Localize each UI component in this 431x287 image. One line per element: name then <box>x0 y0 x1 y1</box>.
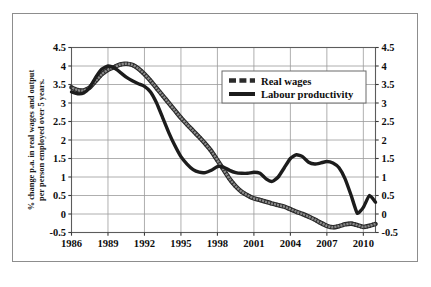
legend-label-real-wages: Real wages <box>261 76 311 87</box>
y-axis-tick-label-left: 4 <box>61 61 66 72</box>
x-axis-tick-label: 2010 <box>353 238 374 249</box>
y-axis-tick-label-right: -0.5 <box>382 227 398 238</box>
x-axis-tick-label: 1995 <box>170 238 191 249</box>
y-axis-tick-label-left: 3.5 <box>53 79 66 90</box>
y-axis-tick-label-left: 1 <box>61 172 66 183</box>
y-axis-tick-label-right: 0 <box>382 209 387 220</box>
x-axis-tick-label: 2007 <box>316 238 338 249</box>
y-axis-tick-label-right: 3 <box>382 98 387 109</box>
legend-label-labour-productivity: Labour productivity <box>261 89 354 100</box>
y-axis-tick-label-right: 3.5 <box>382 79 395 90</box>
legend: Real wagesLabour productivity <box>222 71 366 103</box>
y-axis-tick-label-right: 4.5 <box>382 42 395 53</box>
y-axis-tick-label-right: 1.5 <box>382 153 395 164</box>
x-axis-tick-label: 2001 <box>243 238 264 249</box>
y-axis-title: % change p.a. in real wages and outputpe… <box>27 69 47 210</box>
x-axis-tick-label: 1992 <box>134 238 155 249</box>
y-axis-tick-label-left: 2 <box>61 135 66 146</box>
y-axis-tick-label-right: 0.5 <box>382 190 395 201</box>
y-axis-tick-label-right: 2 <box>382 135 387 146</box>
y-axis-title-line-1: % change p.a. in real wages and output <box>27 69 36 210</box>
y-axis-tick-label-left: 2.5 <box>53 116 66 127</box>
chart-figure: 4.543.532.521.510.50-0.54.543.532.521.51… <box>0 0 431 287</box>
x-axis-tick-label: 1989 <box>97 238 118 249</box>
y-axis-tick-label-left: 0.5 <box>53 190 66 201</box>
x-axis-tick-label: 1986 <box>61 238 82 249</box>
y-axis-tick-label-left: -0.5 <box>50 227 66 238</box>
y-axis-tick-label-right: 2.5 <box>382 116 395 127</box>
y-axis-tick-label-right: 1 <box>382 172 387 183</box>
x-axis-tick-label: 1998 <box>207 238 228 249</box>
y-axis-tick-label-right: 4 <box>382 61 387 72</box>
line-chart: 4.543.532.521.510.50-0.54.543.532.521.51… <box>0 0 431 287</box>
y-axis-title-line-2: per person employed over 5 years. <box>37 79 46 201</box>
y-axis-tick-label-left: 0 <box>61 209 66 220</box>
y-axis-tick-label-left: 1.5 <box>53 153 66 164</box>
y-axis-tick-label-left: 4.5 <box>53 42 66 53</box>
y-axis-tick-label-left: 3 <box>61 98 66 109</box>
x-axis-tick-label: 2004 <box>280 238 302 249</box>
